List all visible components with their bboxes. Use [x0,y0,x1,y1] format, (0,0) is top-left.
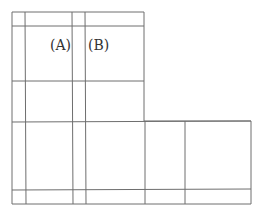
grid-line [12,189,251,190]
grid-line [72,12,73,204]
label-a: (A) [50,37,71,53]
grid-line [25,12,26,204]
label-b: (B) [88,37,109,53]
grid-diagram: (A) (B) [0,0,261,216]
grid-lines [12,12,251,204]
outer-outline [12,12,251,204]
grid-line [85,12,86,204]
grid-line [12,121,251,122]
